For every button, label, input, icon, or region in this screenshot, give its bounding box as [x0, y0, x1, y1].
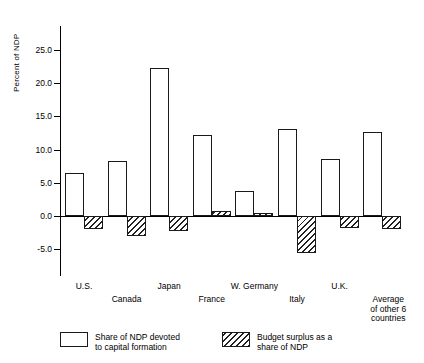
- category-label-4: W. Germany: [220, 282, 288, 292]
- y-tick-mark: [54, 249, 61, 250]
- y-tick-label: 15.0: [12, 112, 52, 120]
- y-tick-mark: [54, 150, 61, 151]
- bar-surplus-6: [340, 216, 359, 228]
- y-axis-line: [60, 26, 61, 276]
- bar-share-5: [278, 129, 297, 216]
- y-tick-label: 0.0: [12, 212, 52, 220]
- bar-surplus-2: [169, 216, 188, 231]
- bar-surplus-1: [127, 216, 146, 236]
- bar-share-4: [235, 191, 254, 216]
- legend-item-share: Share of NDP devoted to capital formatio…: [60, 332, 180, 352]
- bar-share-1: [108, 161, 127, 216]
- bar-share-6: [321, 159, 340, 216]
- y-tick-mark: [54, 216, 61, 217]
- y-tick-label-wrap: 0.0: [0, 212, 52, 220]
- bar-surplus-3: [212, 211, 231, 216]
- y-tick-mark: [54, 50, 61, 51]
- bar-surplus-5: [297, 216, 316, 253]
- category-label-3: France: [178, 295, 246, 305]
- y-tick-label-wrap: 10.0: [0, 146, 52, 154]
- bar-share-2: [150, 68, 169, 216]
- bar-surplus-0: [84, 216, 103, 229]
- category-label-2: Japan: [135, 282, 203, 292]
- category-label-6: U.K.: [306, 282, 374, 292]
- bar-surplus-4: [254, 213, 273, 216]
- category-label-5: Italy: [263, 295, 331, 305]
- chart-legend: Share of NDP devoted to capital formatio…: [0, 330, 424, 363]
- hatched-swatch: [222, 332, 250, 347]
- y-tick-label: 5.0: [12, 179, 52, 187]
- bar-share-7: [363, 132, 382, 216]
- y-tick-mark: [54, 116, 61, 117]
- plot-area: -5.00.05.010.015.020.025.0 U.S.CanadaJap…: [0, 0, 424, 300]
- y-tick-label-wrap: 15.0: [0, 112, 52, 120]
- legend-item-surplus: Budget surplus as a share of NDP: [222, 332, 332, 352]
- y-tick-label: -5.0: [12, 245, 52, 253]
- y-tick-mark: [54, 83, 61, 84]
- legend-label-share: Share of NDP devoted to capital formatio…: [95, 332, 180, 352]
- category-label-1: Canada: [93, 295, 161, 305]
- bar-share-0: [65, 173, 84, 216]
- y-tick-label-wrap: 5.0: [0, 179, 52, 187]
- y-tick-label-wrap: 20.0: [0, 79, 52, 87]
- y-tick-label: 25.0: [12, 46, 52, 54]
- y-tick-label-wrap: 25.0: [0, 46, 52, 54]
- category-label-7: Average of other 6 countries: [354, 295, 422, 324]
- legend-label-surplus: Budget surplus as a share of NDP: [257, 332, 332, 352]
- bar-chart: Percent of NDP -5.00.05.010.015.020.025.…: [0, 0, 424, 363]
- y-tick-label-wrap: -5.0: [0, 245, 52, 253]
- bar-share-3: [193, 135, 212, 216]
- solid-swatch: [60, 332, 88, 347]
- bar-surplus-7: [382, 216, 401, 229]
- y-tick-label: 20.0: [12, 79, 52, 87]
- y-tick-label: 10.0: [12, 146, 52, 154]
- category-label-0: U.S.: [50, 282, 118, 292]
- y-tick-mark: [54, 183, 61, 184]
